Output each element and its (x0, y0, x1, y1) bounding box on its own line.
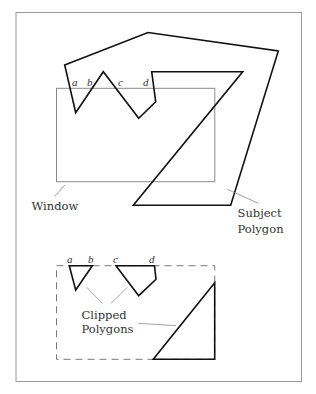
top-panel: a b c d Window Subject Polygon (32, 33, 285, 237)
clipped-leader-line-3 (138, 323, 176, 325)
label-b-bottom: b (88, 253, 94, 265)
subject-polygon (65, 33, 279, 206)
polygon-clipping-diagram: a b c d Window Subject Polygon a b c d C… (0, 0, 316, 394)
figure-frame (16, 13, 302, 382)
window-leader-line (55, 185, 65, 196)
clipped-leader-line-2 (111, 287, 127, 303)
window-label: Window (32, 199, 79, 213)
label-c-top: c (118, 76, 123, 88)
label-c-bottom: c (113, 253, 118, 265)
label-d-bottom: d (149, 253, 155, 265)
clipped-polygon-ab (69, 266, 92, 290)
clipped-polygon-triangle (153, 283, 214, 360)
label-d-top: d (143, 76, 149, 88)
clipped-label-line1: Clipped (82, 308, 128, 322)
subject-label-line2: Polygon (238, 222, 285, 236)
clipped-leader-line-1 (87, 287, 103, 303)
label-a-top: a (72, 76, 78, 88)
clipped-polygon-cd (116, 266, 156, 296)
label-b-top: b (87, 76, 93, 88)
subject-label-line1: Subject (238, 206, 282, 220)
label-a-bottom: a (67, 253, 73, 265)
clipped-label-line2: Polygons (82, 322, 134, 336)
bottom-panel: a b c d Clipped Polygons (57, 253, 215, 359)
